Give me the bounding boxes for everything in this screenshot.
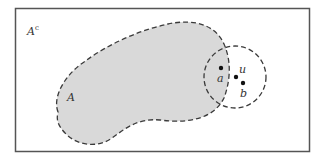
point-b (241, 81, 245, 85)
point-u (234, 75, 238, 79)
point-a-label: a (217, 72, 224, 85)
venn-diagram: Ac A a u b (0, 0, 325, 159)
point-b-label: b (240, 87, 247, 100)
point-a (219, 66, 223, 70)
point-u-label: u (239, 63, 246, 76)
set-a-label: A (66, 91, 75, 104)
